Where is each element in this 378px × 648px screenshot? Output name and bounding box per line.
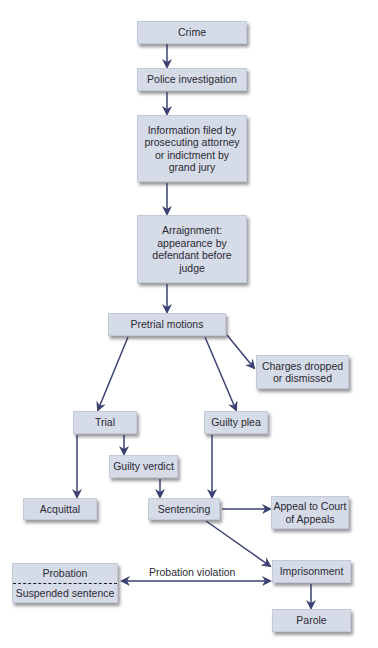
node-information-line: grand jury — [169, 161, 216, 174]
node-appeal-line: of Appeals — [285, 513, 334, 526]
node-crime: Crime — [137, 21, 247, 44]
node-arraignment-line: appearance by — [157, 237, 226, 250]
node-acquittal-label: Acquittal — [40, 503, 80, 516]
node-sentencing: Sentencing — [148, 498, 220, 520]
edge-label-probation-violation: Probation violation — [149, 566, 235, 578]
node-arraignment: Arraignment: appearance by defendant bef… — [137, 215, 247, 283]
node-appeal-line: Appeal to Court — [274, 500, 347, 513]
node-imprisonment: Imprisonment — [272, 560, 351, 583]
node-charges-line: or dismissed — [273, 372, 332, 385]
node-guilty-plea-label: Guilty plea — [211, 416, 261, 429]
node-information-line: prosecuting attorney — [144, 136, 239, 149]
node-guilty-verdict-label: Guilty verdict — [113, 460, 174, 473]
node-trial-label: Trial — [95, 416, 115, 429]
node-trial: Trial — [73, 411, 137, 434]
node-charges-dropped: Charges dropped or dismissed — [256, 355, 349, 389]
node-appeal: Appeal to Court of Appeals — [271, 496, 349, 529]
node-acquittal: Acquittal — [23, 498, 97, 520]
node-police-investigation: Police investigation — [137, 68, 247, 91]
node-imprisonment-label: Imprisonment — [280, 565, 344, 578]
node-arraignment-line: defendant before — [152, 249, 231, 262]
node-arraignment-line: Arraignment: — [162, 224, 222, 237]
node-pretrial-motions: Pretrial motions — [108, 313, 226, 336]
node-pretrial-motions-label: Pretrial motions — [131, 318, 204, 331]
node-suspended-sentence-label: Suspended sentence — [13, 587, 117, 600]
node-information-filed: Information filed by prosecuting attorne… — [137, 115, 247, 182]
node-crime-label: Crime — [178, 26, 206, 39]
node-sentencing-label: Sentencing — [158, 503, 211, 516]
node-police-investigation-label: Police investigation — [147, 73, 237, 86]
node-guilty-verdict: Guilty verdict — [109, 455, 178, 478]
node-information-line: Information filed by — [148, 124, 237, 137]
node-charges-line: Charges dropped — [262, 360, 343, 373]
node-parole-label: Parole — [296, 614, 326, 627]
node-information-line: or indictment by — [155, 149, 229, 162]
node-guilty-plea: Guilty plea — [204, 411, 268, 434]
node-arraignment-line: judge — [179, 262, 205, 275]
node-probation-label: Probation — [13, 567, 117, 584]
node-parole: Parole — [272, 609, 351, 632]
node-probation-suspended: Probation Suspended sentence — [12, 563, 118, 603]
